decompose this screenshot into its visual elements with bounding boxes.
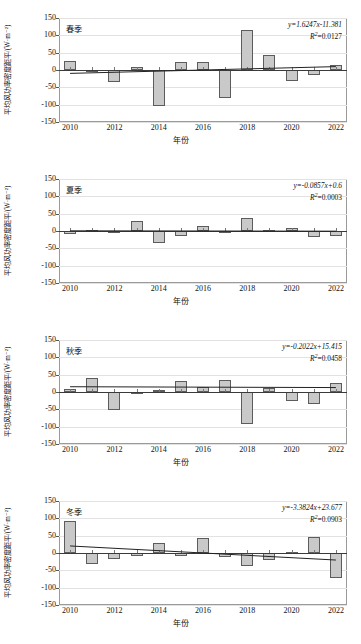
y-tick-label: 150 [44, 336, 56, 344]
y-tick-label: 150 [44, 14, 56, 22]
x-tick-label: 2010 [62, 445, 78, 454]
y-tick-label: -100 [41, 423, 56, 431]
x-tick-label: 2020 [284, 284, 300, 293]
regression-annotation: y=-0.0857x+0.6R2=0.0003 [293, 181, 342, 202]
y-axis-label-text: 平均风功率密度距平/(W·m⁻²) [2, 347, 12, 438]
y-tick-label: 50 [48, 210, 56, 218]
y-axis-label-text: 平均风功率密度距平/(W·m⁻²) [2, 508, 12, 599]
x-axis-title: 年份 [0, 456, 361, 467]
x-tick-label: 2012 [106, 123, 122, 132]
y-axis-label-text: 平均风功率密度距平/(W·m⁻²) [2, 25, 12, 116]
x-tick-label: 2020 [284, 606, 300, 615]
y-axis-ticks: 150100500-50-100-150 [20, 501, 56, 605]
r-squared-number: =0.0003 [318, 193, 343, 202]
regression-equation: y=-0.0857x+0.6 [293, 181, 342, 191]
y-axis-label-text: 平均风功率密度距平/(W·m⁻²) [2, 186, 12, 277]
r-squared-value: R2=0.0903 [282, 513, 342, 525]
y-tick-label: 100 [44, 31, 56, 39]
y-tick-label: -150 [41, 118, 56, 126]
x-axis-title: 年份 [0, 617, 361, 628]
y-tick-label: -50 [45, 566, 56, 574]
season-label: 冬季 [66, 505, 82, 517]
y-tick-label: -100 [41, 584, 56, 592]
x-tick-label: 2018 [239, 284, 255, 293]
r-squared-number: =0.0903 [318, 515, 343, 524]
y-axis-ticks: 150100500-50-100-150 [20, 179, 56, 283]
y-tick-label: -50 [45, 405, 56, 413]
y-tick-label: 150 [44, 175, 56, 183]
y-tick-label: -100 [41, 101, 56, 109]
x-tick-label: 2022 [328, 445, 344, 454]
regression-equation: y=-3.3824x+23.677 [282, 503, 342, 513]
chart-panel: 平均风功率密度距平/(W·m⁻²)150100500-50-100-150冬季y… [0, 483, 361, 644]
y-tick-label: 50 [48, 371, 56, 379]
x-axis-title: 年份 [0, 295, 361, 306]
plot-area: 冬季y=-3.3824x+23.677R2=0.0903 [59, 501, 347, 605]
y-tick-label: 50 [48, 532, 56, 540]
x-tick-label: 2022 [328, 123, 344, 132]
y-tick-label: -150 [41, 279, 56, 287]
y-axis-label: 平均风功率密度距平/(W·m⁻²) [0, 483, 14, 623]
regression-annotation: y=-3.3824x+23.677R2=0.0903 [282, 503, 342, 524]
x-tick-label: 2018 [239, 606, 255, 615]
x-tick-label: 2014 [151, 445, 167, 454]
regression-annotation: y=1.6247x-11.381R2=0.0127 [288, 20, 342, 41]
x-tick-label: 2014 [151, 606, 167, 615]
x-tick-label: 2012 [106, 284, 122, 293]
r-squared-value: R2=0.0127 [288, 30, 342, 42]
figure-panel-set: 平均风功率密度距平/(W·m⁻²)150100500-50-100-150春季y… [0, 0, 361, 644]
y-tick-label: 100 [44, 514, 56, 522]
y-tick-label: -100 [41, 262, 56, 270]
r-squared-value: R2=0.0003 [293, 191, 342, 203]
y-tick-label: -50 [45, 244, 56, 252]
x-tick-label: 2022 [328, 606, 344, 615]
y-tick-label: -150 [41, 440, 56, 448]
x-tick-label: 2022 [328, 284, 344, 293]
regression-equation: y=-0.2022x+15.415 [282, 342, 342, 352]
x-tick-label: 2016 [195, 445, 211, 454]
y-tick-label: 100 [44, 353, 56, 361]
chart-panel: 平均风功率密度距平/(W·m⁻²)150100500-50-100-150春季y… [0, 0, 361, 161]
x-tick-label: 2012 [106, 445, 122, 454]
plot-area: 春季y=1.6247x-11.381R2=0.0127 [59, 18, 347, 122]
chart-panel: 平均风功率密度距平/(W·m⁻²)150100500-50-100-150秋季y… [0, 322, 361, 483]
x-tick-label: 2016 [195, 123, 211, 132]
x-tick-label: 2018 [239, 123, 255, 132]
y-axis-ticks: 150100500-50-100-150 [20, 18, 56, 122]
r-squared-number: =0.0127 [318, 32, 343, 41]
y-tick-label: -50 [45, 83, 56, 91]
x-tick-label: 2018 [239, 445, 255, 454]
x-axis-title: 年份 [0, 134, 361, 145]
x-tick-label: 2016 [195, 284, 211, 293]
y-tick-label: -150 [41, 601, 56, 609]
x-tick-label: 2014 [151, 284, 167, 293]
x-tick-label: 2014 [151, 123, 167, 132]
y-axis-label: 平均风功率密度距平/(W·m⁻²) [0, 0, 14, 140]
y-axis-label: 平均风功率密度距平/(W·m⁻²) [0, 322, 14, 462]
r-squared-number: =0.0458 [318, 354, 343, 363]
season-label: 春季 [66, 22, 82, 34]
y-tick-label: 150 [44, 497, 56, 505]
regression-equation: y=1.6247x-11.381 [288, 20, 342, 30]
x-tick-label: 2016 [195, 606, 211, 615]
x-tick-label: 2020 [284, 445, 300, 454]
x-tick-label: 2010 [62, 606, 78, 615]
regression-annotation: y=-0.2022x+15.415R2=0.0458 [282, 342, 342, 363]
season-label: 秋季 [66, 344, 82, 356]
y-tick-label: 100 [44, 192, 56, 200]
chart-panel: 平均风功率密度距平/(W·m⁻²)150100500-50-100-150夏季y… [0, 161, 361, 322]
season-label: 夏季 [66, 183, 82, 195]
x-tick-label: 2012 [106, 606, 122, 615]
x-tick-label: 2010 [62, 123, 78, 132]
x-tick-label: 2020 [284, 123, 300, 132]
y-axis-ticks: 150100500-50-100-150 [20, 340, 56, 444]
y-tick-label: 50 [48, 49, 56, 57]
r-squared-value: R2=0.0458 [282, 352, 342, 364]
plot-area: 秋季y=-0.2022x+15.415R2=0.0458 [59, 340, 347, 444]
x-tick-label: 2010 [62, 284, 78, 293]
plot-area: 夏季y=-0.0857x+0.6R2=0.0003 [59, 179, 347, 283]
y-axis-label: 平均风功率密度距平/(W·m⁻²) [0, 161, 14, 301]
